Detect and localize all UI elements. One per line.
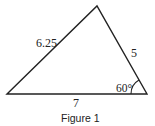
triangle-figure: 6.25 5 60° 7 Figure 1 — [0, 0, 155, 126]
angle-arc-icon — [131, 80, 139, 94]
angle-label: 60° — [116, 82, 133, 94]
side-label-bottom: 7 — [73, 96, 79, 110]
figure-caption: Figure 1 — [61, 112, 100, 124]
side-label-left: 6.25 — [36, 36, 57, 50]
triangle-outline — [7, 6, 147, 94]
side-label-right: 5 — [131, 46, 137, 60]
